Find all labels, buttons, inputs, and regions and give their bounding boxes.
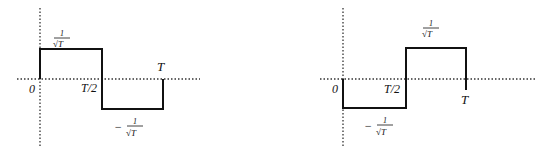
period-label: T <box>461 92 469 107</box>
neg-denominator: √T <box>376 127 387 137</box>
pos-numerator: 1 <box>60 29 64 38</box>
left-waveform: 0 T/2 T 1 √T − 1 √T <box>17 8 200 146</box>
pos-denominator: √T <box>53 39 64 49</box>
period-label: T <box>157 59 165 74</box>
neg-sign: − <box>364 119 372 133</box>
half-period-label: T/2 <box>81 81 97 95</box>
pos-denominator: √T <box>422 29 433 39</box>
pos-numerator: 1 <box>429 19 433 28</box>
origin-label: 0 <box>29 82 35 96</box>
origin-label: 0 <box>332 82 338 96</box>
right-waveform: 0 T/2 T 1 √T − 1 √T <box>320 8 535 146</box>
neg-numerator: 1 <box>133 117 137 126</box>
neg-sign: − <box>114 120 122 134</box>
neg-denominator: √T <box>126 128 137 138</box>
waveform-line <box>40 49 163 109</box>
neg-numerator: 1 <box>383 116 387 125</box>
half-period-label: T/2 <box>384 82 400 96</box>
diagram-canvas: 0 T/2 T 1 √T − 1 √T 0 T/2 T 1 √T − 1 √T <box>0 0 547 148</box>
waveform-line <box>343 48 466 108</box>
